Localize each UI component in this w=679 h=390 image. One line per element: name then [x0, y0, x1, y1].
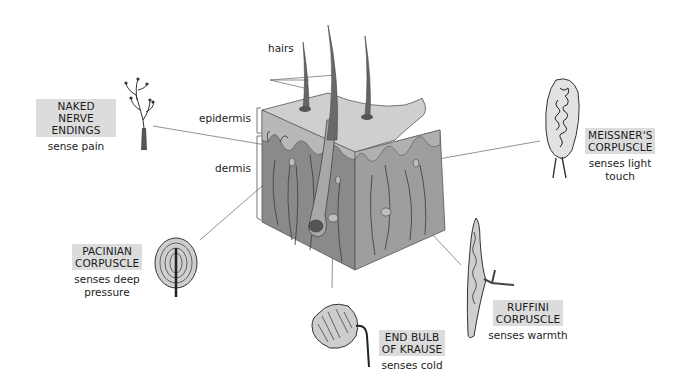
receptor-desc: senses cold	[377, 359, 447, 372]
layer-brackets	[257, 108, 261, 220]
receptor-title: RUFFINICORPUSCLE	[493, 300, 563, 326]
hair-left	[303, 42, 309, 110]
end-bulb-of-krause-illustration	[312, 304, 369, 367]
dermis-bracket	[257, 136, 261, 220]
label-naked-nerve-endings: NAKED NERVEENDINGS sense pain	[36, 99, 116, 153]
skin-receptors-diagram	[0, 0, 679, 390]
label-end-bulb-of-krause: END BULBOF KRAUSE senses cold	[377, 330, 447, 372]
receptor-title: MEISSNER'SCORPUSCLE	[585, 128, 655, 154]
receptor-title: PACINIANCORPUSCLE	[72, 244, 142, 270]
hair-right	[365, 36, 370, 116]
dermis-label: dermis	[215, 162, 251, 174]
meissners-corpuscle-illustration	[546, 79, 579, 178]
receptor-desc: sense pain	[36, 140, 116, 153]
receptor-title: END BULBOF KRAUSE	[379, 330, 445, 356]
epidermis-label: epidermis	[199, 112, 251, 124]
skin-block	[262, 93, 445, 270]
receptor-desc: senses lighttouch	[585, 157, 655, 182]
label-pacinian-corpuscle: PACINIANCORPUSCLE senses deeppressure	[72, 244, 142, 298]
naked-nerve-endings-illustration	[126, 79, 153, 150]
pacinian-corpuscle-illustration	[155, 238, 197, 297]
receptor-desc: senses deeppressure	[72, 273, 142, 298]
hairs-label: hairs	[268, 42, 294, 54]
epidermis-bracket	[257, 108, 261, 133]
receptor-title: NAKED NERVEENDINGS	[36, 99, 116, 137]
leader-naked-nerve	[153, 126, 266, 145]
label-meissners-corpuscle: MEISSNER'SCORPUSCLE senses lighttouch	[585, 128, 655, 182]
leader-hair-2	[270, 80, 304, 88]
label-ruffini-corpuscle: RUFFINICORPUSCLE senses warmth	[488, 300, 568, 342]
leader-hair-3	[270, 75, 336, 80]
receptor-desc: senses warmth	[488, 329, 568, 342]
